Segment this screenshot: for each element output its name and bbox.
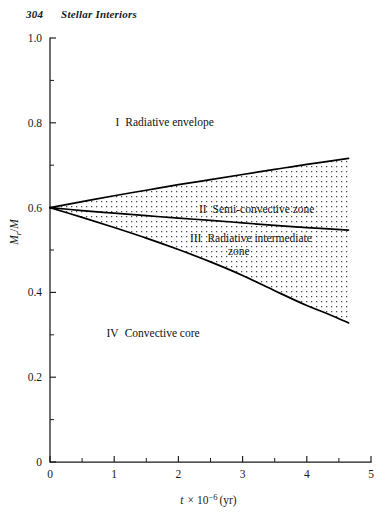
x-tick-label: 1 [111, 468, 117, 480]
x-tick-label: 2 [176, 468, 182, 480]
y-tick-label: 0 [36, 456, 42, 468]
annotation-region-1: IRadiative envelope [115, 116, 213, 129]
y-axis-title: Mr/M [8, 218, 23, 246]
figure-stellar-structure-evolution: 00.20.40.60.81.0 012345 IRadiative envel… [0, 0, 385, 514]
x-axis-ticks [50, 456, 371, 462]
y-tick-label: 0.6 [28, 202, 43, 214]
x-tick-label: 3 [240, 468, 246, 480]
x-tick-label: 0 [47, 468, 53, 480]
annotation-text: IISemi-convective zone [199, 203, 315, 215]
x-axis-tick-labels: 012345 [47, 468, 374, 480]
annotation-text: IVConvective core [106, 327, 199, 339]
y-tick-label: 0.8 [28, 117, 43, 129]
x-tick-label: 5 [368, 468, 374, 480]
y-tick-label: 0.2 [28, 371, 43, 383]
y-tick-label: 0.4 [28, 286, 43, 298]
annotation-region-4: IVConvective core [106, 327, 199, 339]
x-tick-label: 4 [304, 468, 310, 480]
plot-canvas: 00.20.40.60.81.0 012345 IRadiative envel… [0, 0, 385, 514]
annotation-text: IRadiative envelope [115, 116, 213, 129]
axis-titles: t× 10−6(yr) Mr/M [8, 218, 237, 507]
y-axis-tick-labels: 00.20.40.60.81.0 [28, 32, 43, 468]
y-axis-ticks [50, 38, 56, 462]
annotation-region-2: IISemi-convective zone [199, 203, 315, 215]
y-tick-label: 1.0 [28, 32, 43, 44]
x-axis-title: t× 10−6(yr) [180, 492, 237, 507]
stipple-shaded-region [50, 38, 371, 462]
